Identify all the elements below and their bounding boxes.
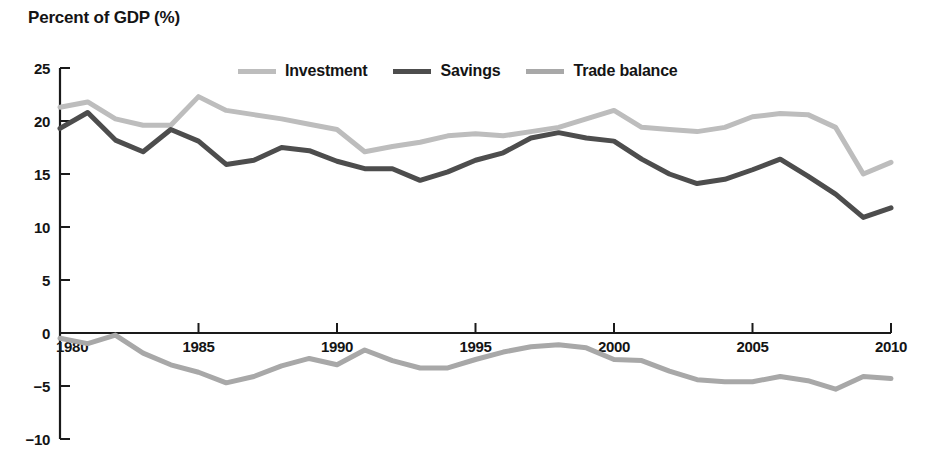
- series-line-trade-balance: [60, 335, 891, 389]
- series-line-savings: [60, 113, 891, 218]
- axis-tick-marks: [60, 68, 891, 439]
- series-lines: [60, 97, 891, 390]
- axis-lines: [60, 68, 891, 439]
- plot-area: [0, 0, 927, 473]
- chart-figure: Percent of GDP (%) Investment Savings Tr…: [0, 0, 927, 473]
